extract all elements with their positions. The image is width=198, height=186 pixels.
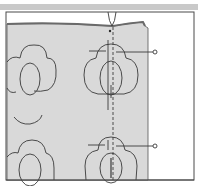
pin-head-icon [153,50,157,54]
pin-head-icon [153,144,157,148]
marker-dot [109,30,111,32]
top-band [0,4,198,10]
quilting-diagram [0,0,198,186]
